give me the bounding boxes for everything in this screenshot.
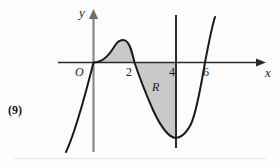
graph-canvas	[0, 0, 280, 165]
figure-container: y x O 2 4 6 R (9)	[0, 0, 280, 165]
region-label-R: R	[152, 81, 159, 93]
bottom-divider	[14, 158, 266, 159]
origin-label: O	[75, 66, 84, 78]
x-tick-label-2: 2	[126, 66, 132, 78]
question-number: (9)	[8, 104, 22, 116]
cubic-curve	[66, 17, 215, 152]
x-tick-label-4: 4	[169, 66, 175, 78]
y-axis	[89, 9, 98, 152]
y-axis-label: y	[79, 6, 85, 19]
x-axis-label: x	[265, 66, 271, 79]
x-tick-label-6: 6	[203, 66, 209, 78]
